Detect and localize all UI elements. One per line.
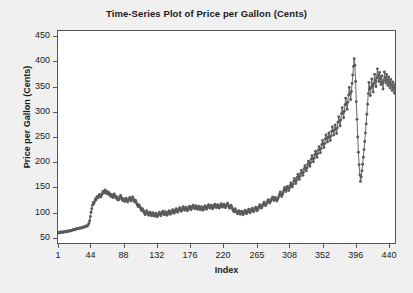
- data-series-svg: [58, 31, 395, 243]
- x-tick-label: 220: [205, 250, 241, 260]
- y-tick-label: 200: [6, 156, 50, 166]
- x-tick-label: 88: [106, 250, 142, 260]
- y-tick-label: 450: [6, 30, 50, 40]
- x-tick-label: 265: [239, 250, 275, 260]
- x-tick-mark: [58, 244, 59, 248]
- x-tick-mark: [90, 244, 91, 248]
- chart-title: Time-Series Plot of Price per Gallon (Ce…: [0, 8, 413, 19]
- x-tick-mark: [389, 244, 390, 248]
- y-tick-label: 400: [6, 55, 50, 65]
- x-tick-label: 44: [72, 250, 108, 260]
- y-tick-label: 100: [6, 207, 50, 217]
- x-tick-mark: [257, 244, 258, 248]
- x-tick-label: 176: [172, 250, 208, 260]
- y-tick-label: 350: [6, 81, 50, 91]
- x-tick-mark: [356, 244, 357, 248]
- x-tick-label: 440: [371, 250, 407, 260]
- time-series-chart: Time-Series Plot of Price per Gallon (Ce…: [0, 0, 413, 293]
- y-tick-label: 150: [6, 181, 50, 191]
- x-tick-label: 308: [271, 250, 307, 260]
- x-tick-mark: [323, 244, 324, 248]
- x-tick-mark: [124, 244, 125, 248]
- x-tick-label: 132: [139, 250, 175, 260]
- x-tick-label: 396: [338, 250, 374, 260]
- x-tick-label: 352: [305, 250, 341, 260]
- y-tick-label: 250: [6, 131, 50, 141]
- x-tick-mark: [223, 244, 224, 248]
- x-tick-label: 1: [40, 250, 76, 260]
- x-axis-label: Index: [57, 265, 396, 275]
- y-tick-label: 50: [6, 232, 50, 242]
- y-tick-label: 300: [6, 106, 50, 116]
- series-markers: [58, 57, 395, 234]
- x-tick-mark: [190, 244, 191, 248]
- x-tick-mark: [157, 244, 158, 248]
- x-tick-mark: [289, 244, 290, 248]
- plot-area: [57, 30, 396, 244]
